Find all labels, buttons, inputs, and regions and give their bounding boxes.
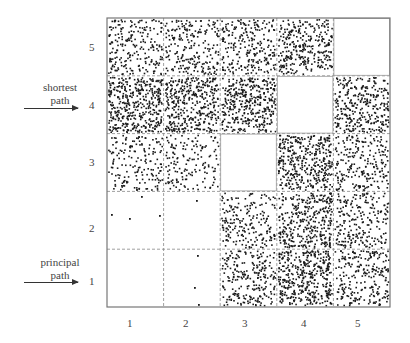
shortest-path-arrow-icon <box>24 108 78 109</box>
x-tick-1: 1 <box>127 318 133 329</box>
shortest-path-label-line2: path <box>30 94 90 107</box>
x-tick-5: 5 <box>355 318 361 329</box>
y-tick-5: 5 <box>89 42 95 53</box>
x-tick-3: 3 <box>242 318 248 329</box>
scatter-block-matrix <box>0 0 410 343</box>
shortest-path-label-line1: shortest <box>30 81 90 94</box>
y-tick-2: 2 <box>89 223 95 234</box>
shortest-path-annotation: shortest path <box>30 81 90 107</box>
principal-path-arrow-icon <box>24 282 78 283</box>
y-tick-3: 3 <box>89 157 95 168</box>
x-tick-4: 4 <box>301 318 307 329</box>
principal-path-label-line2: path <box>30 269 90 282</box>
x-tick-2: 2 <box>183 318 189 329</box>
principal-path-label-line1: principal <box>30 256 90 269</box>
principal-path-annotation: principal path <box>30 256 90 282</box>
